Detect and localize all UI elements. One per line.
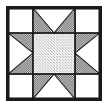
- center-square-cell: [33, 33, 75, 74]
- quilt-block-frame: [6, 6, 102, 101]
- block-title: Sawtooth Star Quilt Block: [0, 0, 1, 1]
- block-grid-label: 3x3: [0, 0, 1, 1]
- block-pattern-name: Variable Star: [0, 0, 1, 1]
- image-canvas: Sawtooth Star Quilt Block Variable Star …: [0, 0, 109, 110]
- quilt-block-diagram: [8, 8, 100, 99]
